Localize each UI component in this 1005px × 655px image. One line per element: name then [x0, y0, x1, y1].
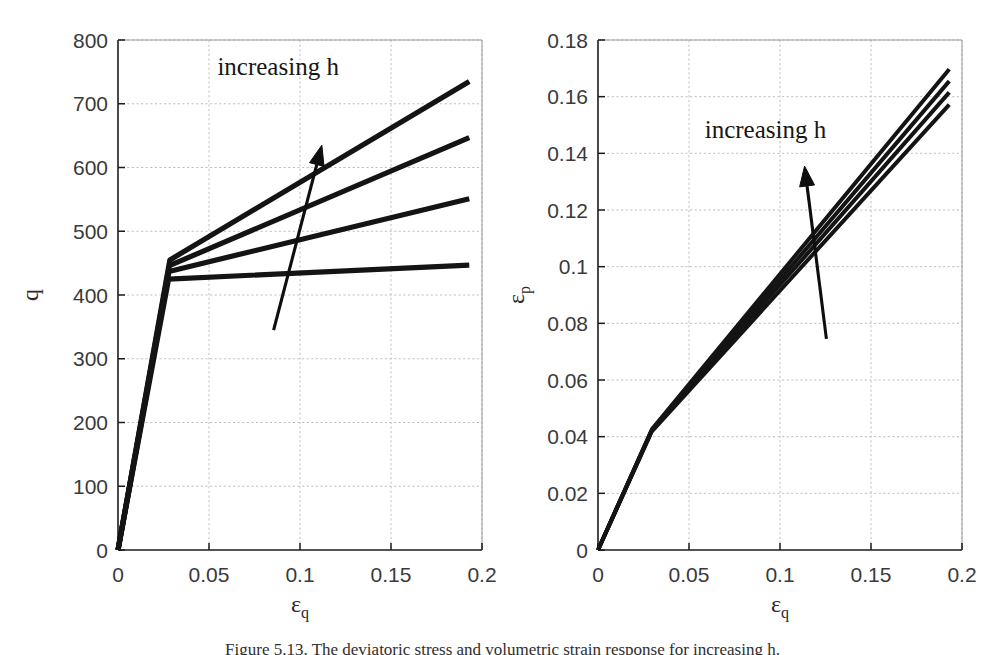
y-tick-label: 300 — [73, 347, 108, 370]
arrow-head-icon — [310, 145, 325, 166]
y-tick-label: 600 — [73, 156, 108, 179]
y-tick-label: 0.08 — [547, 312, 588, 335]
series-curve — [118, 138, 469, 550]
annotation-label: increasing h — [705, 116, 827, 143]
y-tick-label: 700 — [73, 92, 108, 115]
x-tick-label: 0.15 — [371, 563, 412, 586]
series-curve — [598, 105, 949, 550]
y-tick-label: 800 — [73, 29, 108, 52]
x-tick-label: 0.15 — [851, 563, 892, 586]
y-tick-label: 0.1 — [559, 255, 588, 278]
y-tick-label: 0.18 — [547, 29, 588, 52]
y-tick-label: 0.02 — [547, 482, 588, 505]
y-axis-title: εp — [503, 286, 534, 304]
x-tick-label: 0.2 — [467, 563, 496, 586]
arrow-head-icon — [800, 166, 815, 187]
y-tick-label: 100 — [73, 475, 108, 498]
x-axis-title: εq — [771, 591, 789, 622]
x-tick-label: 0.05 — [189, 563, 230, 586]
y-tick-label: 0 — [576, 539, 588, 562]
y-tick-label: 0.16 — [547, 85, 588, 108]
y-tick-label: 0.06 — [547, 369, 588, 392]
y-tick-label: 0 — [96, 539, 108, 562]
axis-ticks: 010020030040050060070080000.050.10.150.2 — [73, 29, 497, 587]
y-tick-label: 500 — [73, 220, 108, 243]
x-tick-label: 0.1 — [765, 563, 794, 586]
y-tick-label: 0.14 — [547, 142, 588, 165]
figure-container: 010020030040050060070080000.050.10.150.2… — [0, 0, 1005, 655]
y-axis-title: q — [17, 289, 43, 301]
y-tick-label: 400 — [73, 284, 108, 307]
increasing-h-annotation: increasing h — [217, 53, 339, 330]
grid-lines — [118, 40, 482, 550]
deviatoric-stress-plot: 010020030040050060070080000.050.10.150.2… — [0, 0, 502, 640]
annotation-label: increasing h — [217, 53, 339, 80]
x-tick-label: 0 — [112, 563, 124, 586]
series-group — [118, 81, 469, 550]
plastic-strain-plot: 00.020.040.060.080.10.120.140.160.1800.0… — [500, 0, 1005, 640]
x-tick-label: 0 — [592, 563, 604, 586]
series-curve — [118, 265, 469, 550]
y-tick-label: 0.04 — [547, 425, 588, 448]
chart-panel-left: 010020030040050060070080000.050.10.150.2… — [0, 0, 502, 655]
y-tick-label: 0.12 — [547, 199, 588, 222]
series-curve — [118, 81, 469, 550]
x-axis-title: εq — [291, 591, 309, 622]
y-tick-label: 200 — [73, 411, 108, 434]
figure-caption: Figure 5.13. The deviatoric stress and v… — [0, 640, 1005, 655]
chart-panel-right: 00.020.040.060.080.10.120.140.160.1800.0… — [500, 0, 1005, 655]
x-tick-label: 0.05 — [669, 563, 710, 586]
x-tick-label: 0.2 — [947, 563, 976, 586]
x-tick-label: 0.1 — [285, 563, 314, 586]
